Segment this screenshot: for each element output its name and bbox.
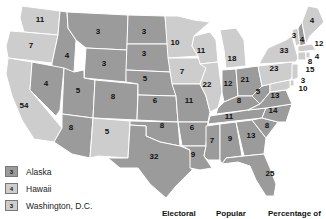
state-az bbox=[54, 114, 93, 158]
label-ca: 54 bbox=[20, 101, 29, 110]
legend-item-alaska: 3 Alaska bbox=[5, 163, 92, 180]
label-oh: 21 bbox=[241, 75, 250, 84]
label-me: 4 bbox=[310, 16, 315, 25]
label-al: 9 bbox=[228, 134, 233, 143]
label-nc: 14 bbox=[269, 106, 278, 115]
legend: 3 Alaska 4 Hawaii 3 Washington, D.C. bbox=[5, 163, 92, 214]
label-vt: 3 bbox=[292, 31, 297, 40]
label-co: 8 bbox=[111, 92, 116, 101]
header-percentage: Percentage of bbox=[268, 209, 321, 218]
label-wv: 5 bbox=[256, 87, 261, 96]
state-nd bbox=[127, 15, 168, 44]
label-ia: 7 bbox=[180, 67, 185, 76]
label-ga: 13 bbox=[247, 131, 256, 140]
label-pa: 23 bbox=[270, 64, 279, 73]
label-ks: 6 bbox=[153, 96, 158, 105]
label-wi: 11 bbox=[197, 46, 206, 55]
header-electoral: Electoral bbox=[162, 209, 196, 218]
label-tn: 11 bbox=[225, 112, 234, 121]
label-in: 12 bbox=[224, 79, 233, 88]
label-ar: 6 bbox=[190, 123, 195, 132]
legend-label: Washington, D.C. bbox=[26, 201, 92, 211]
state-ma bbox=[298, 44, 316, 52]
label-wy: 3 bbox=[102, 59, 107, 68]
state-ks bbox=[137, 95, 178, 122]
legend-label: Hawaii bbox=[26, 184, 52, 194]
header-popular: Popular bbox=[216, 209, 246, 218]
state-sd bbox=[126, 44, 170, 72]
state-nm bbox=[90, 118, 130, 158]
label-il: 22 bbox=[203, 80, 212, 89]
label-nv: 4 bbox=[44, 79, 49, 88]
label-ok: 8 bbox=[160, 121, 165, 130]
label-va: 13 bbox=[271, 91, 280, 100]
legend-swatch: 3 bbox=[5, 166, 18, 177]
label-mn: 10 bbox=[171, 38, 180, 47]
label-md: 10 bbox=[299, 84, 308, 93]
state-nj bbox=[292, 64, 298, 80]
label-ut: 5 bbox=[76, 86, 81, 95]
label-sc: 8 bbox=[265, 121, 270, 130]
label-wa: 11 bbox=[36, 15, 45, 24]
legend-swatch: 4 bbox=[5, 183, 18, 194]
label-ms: 7 bbox=[210, 136, 215, 145]
label-nh: 4 bbox=[300, 35, 305, 44]
label-mo: 11 bbox=[185, 96, 194, 105]
label-ky: 8 bbox=[237, 96, 242, 105]
state-de bbox=[290, 80, 294, 86]
label-nd: 3 bbox=[142, 27, 147, 36]
state-ct bbox=[298, 52, 306, 60]
label-id: 4 bbox=[65, 51, 70, 60]
label-tx: 32 bbox=[150, 152, 159, 161]
legend-item-dc: 3 Washington, D.C. bbox=[5, 197, 92, 214]
label-ne: 5 bbox=[143, 74, 148, 83]
label-la: 9 bbox=[191, 150, 196, 159]
legend-item-hawaii: 4 Hawaii bbox=[5, 180, 92, 197]
label-mt: 3 bbox=[96, 27, 101, 36]
label-ny: 33 bbox=[280, 46, 289, 55]
label-sd: 3 bbox=[142, 49, 147, 58]
label-or: 7 bbox=[29, 41, 34, 50]
legend-swatch: 3 bbox=[5, 200, 18, 211]
label-az: 8 bbox=[69, 123, 74, 132]
label-nm: 5 bbox=[105, 127, 110, 136]
label-mi: 18 bbox=[228, 54, 237, 63]
label-ma: 12 bbox=[315, 39, 324, 48]
label-nj: 15 bbox=[306, 65, 315, 74]
label-ri: 4 bbox=[315, 52, 320, 61]
state-co bbox=[93, 80, 138, 120]
legend-label: Alaska bbox=[26, 167, 52, 177]
label-fl: 25 bbox=[266, 169, 275, 178]
